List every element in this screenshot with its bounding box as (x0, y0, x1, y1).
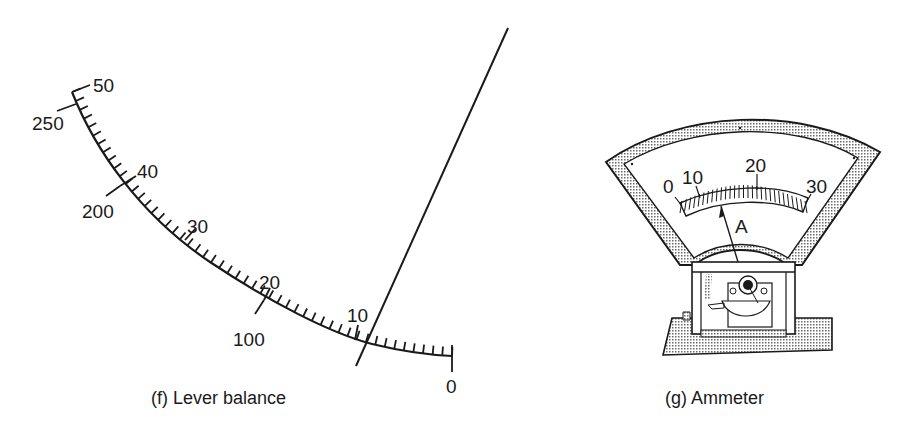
lower-label-200: 200 (82, 201, 114, 222)
upper-label-40: 40 (137, 161, 158, 182)
caption-ammeter: (g) Ammeter (665, 388, 764, 408)
ammeter-diagram: 0 10 20 30 A (g) Ammeter (606, 120, 880, 408)
caption-lever-balance: (f) Lever balance (151, 388, 286, 408)
upper-label-20: 20 (259, 272, 280, 293)
figure-canvas: 50 40 30 20 10 250 200 100 0 (f) Lever b… (0, 0, 910, 443)
ammeter-label-0: 0 (663, 176, 674, 197)
upper-label-30: 30 (187, 216, 208, 237)
lower-label-0: 0 (446, 376, 457, 397)
ammeter-unit-label: A (735, 216, 748, 237)
ammeter-label-20: 20 (745, 155, 766, 176)
lower-label-100: 100 (233, 329, 265, 350)
upper-label-50: 50 (93, 75, 114, 96)
ammeter-label-10: 10 (682, 167, 703, 188)
ammeter-label-30: 30 (806, 176, 827, 197)
lever-scale-ticks (72, 89, 452, 356)
lever-balance-diagram: 50 40 30 20 10 250 200 100 0 (f) Lever b… (32, 28, 508, 408)
upper-label-10: 10 (347, 305, 368, 326)
lever-pointer (356, 28, 508, 366)
lever-scale-arc (72, 92, 452, 356)
lower-label-250: 250 (32, 113, 64, 134)
